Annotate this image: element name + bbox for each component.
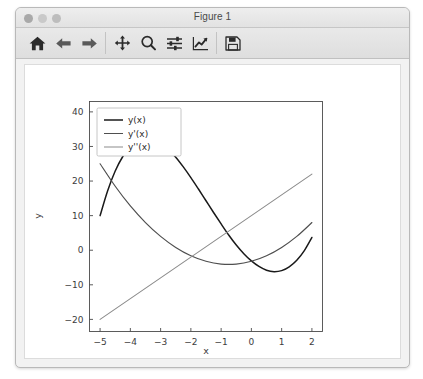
home-button[interactable] — [24, 30, 50, 56]
x-tick-label: −5 — [93, 337, 106, 347]
save-floppy-icon — [225, 36, 241, 51]
pan-button[interactable] — [109, 30, 135, 56]
save-figure-button[interactable] — [220, 30, 246, 56]
data-curves — [100, 138, 312, 319]
x-tick-label: −2 — [184, 337, 197, 347]
y-axis-ticks: −20−10010203040 — [65, 107, 94, 325]
x-tick-label: −3 — [154, 337, 167, 347]
x-tick-label: −1 — [214, 337, 227, 347]
legend-label: y'(x) — [128, 129, 148, 139]
curve-y — [100, 138, 312, 272]
home-icon — [29, 36, 46, 51]
window-title: Figure 1 — [16, 11, 409, 22]
edit-axis-curve-button[interactable] — [187, 30, 213, 56]
y-axis-label: y — [32, 213, 43, 219]
subplot-sliders-icon — [166, 36, 183, 51]
toolbar-separator-2 — [216, 32, 217, 54]
y-tick-label: 10 — [72, 211, 84, 221]
curve-d2y — [100, 174, 312, 319]
configure-subplots-button[interactable] — [161, 30, 187, 56]
y-tick-label: 20 — [72, 176, 84, 186]
window-titlebar: Figure 1 — [16, 8, 409, 28]
y-tick-label: 0 — [78, 245, 84, 255]
y-tick-label: 30 — [72, 142, 84, 152]
screenshot-root: Figure 1 — [0, 0, 423, 379]
y-tick-label: −10 — [65, 280, 84, 290]
toolbar-separator — [105, 32, 106, 54]
pan-move-icon — [114, 35, 131, 51]
x-tick-label: 1 — [279, 337, 285, 347]
back-button[interactable] — [50, 30, 76, 56]
x-tick-label: 0 — [249, 337, 255, 347]
edit-curve-icon — [192, 36, 209, 51]
x-tick-label: −4 — [124, 337, 138, 347]
legend-label: y''(x) — [128, 142, 151, 152]
matplotlib-navigation-toolbar — [16, 28, 409, 59]
y-tick-label: −20 — [65, 315, 84, 325]
x-axis-ticks: −5−4−3−2−1012 — [93, 328, 314, 347]
figure-window: Figure 1 — [15, 7, 410, 368]
legend-label: y(x) — [128, 115, 146, 125]
figure-canvas[interactable]: −5−4−3−2−1012 −20−10010203040 x y y(x)y'… — [24, 64, 401, 359]
forward-arrow-icon — [81, 36, 98, 51]
back-arrow-icon — [55, 36, 72, 51]
y-tick-label: 40 — [72, 107, 84, 117]
x-axis-label: x — [203, 345, 209, 356]
curve-dy — [100, 164, 312, 265]
zoom-button[interactable] — [135, 30, 161, 56]
plot-area[interactable]: −5−4−3−2−1012 −20−10010203040 x y y(x)y'… — [25, 65, 400, 358]
forward-button[interactable] — [76, 30, 102, 56]
zoom-magnifier-icon — [140, 35, 157, 51]
x-tick-label: 2 — [309, 337, 315, 347]
plot-legend[interactable]: y(x)y'(x)y''(x) — [97, 108, 181, 156]
